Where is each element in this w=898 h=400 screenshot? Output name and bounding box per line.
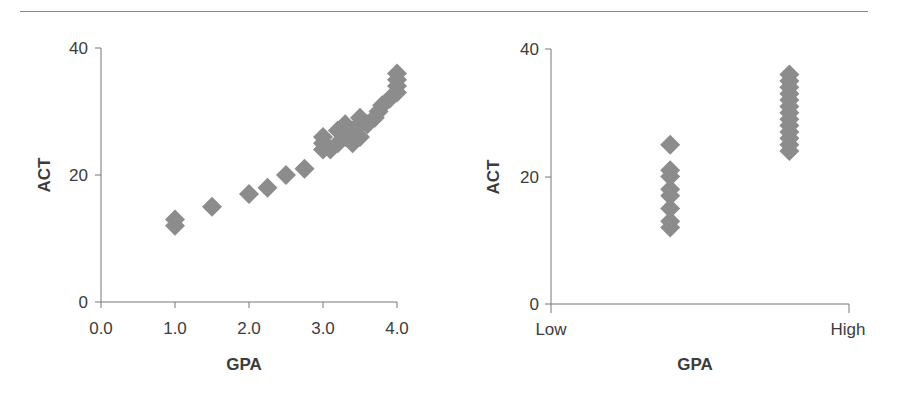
y-tick-40: 40 (69, 39, 88, 58)
y-tick-0: 0 (530, 295, 539, 314)
x-tick-low: Low (535, 320, 567, 339)
data-point-diamond (239, 184, 259, 204)
x-axis-title: GPA (677, 355, 713, 374)
x-axis: Low High GPA (535, 304, 865, 374)
x-axis: 0.0 1.0 2.0 3.0 4.0 GPA (89, 302, 409, 374)
y-axis-title: ACT (35, 157, 54, 193)
scatter-chart-continuous-gpa: 40 20 0 ACT 0.0 1.0 2.0 3.0 4.0 GPA (0, 0, 449, 400)
x-tick-high: High (831, 320, 866, 339)
x-tick-3: 3.0 (311, 319, 335, 338)
y-tick-40: 40 (520, 40, 539, 59)
y-axis-title: ACT (484, 159, 503, 195)
data-point-diamond (202, 197, 222, 217)
data-point-diamond (660, 135, 680, 155)
x-tick-0: 0.0 (89, 319, 113, 338)
y-tick-20: 20 (520, 168, 539, 187)
x-tick-1: 1.0 (163, 319, 187, 338)
x-axis-title: GPA (226, 355, 262, 374)
y-axis: 40 20 0 ACT (35, 39, 101, 312)
y-tick-20: 20 (69, 166, 88, 185)
data-point-diamond (295, 159, 315, 179)
data-point-diamond (258, 178, 278, 198)
data-points (165, 63, 407, 235)
scatter-chart-categorical-gpa: 40 20 0 ACT Low High GPA (449, 0, 898, 400)
y-tick-0: 0 (79, 293, 88, 312)
x-tick-2: 2.0 (237, 319, 261, 338)
y-axis: 40 20 0 ACT (484, 40, 551, 314)
data-point-diamond (276, 165, 296, 185)
x-tick-4: 4.0 (385, 319, 409, 338)
data-points (660, 65, 799, 238)
